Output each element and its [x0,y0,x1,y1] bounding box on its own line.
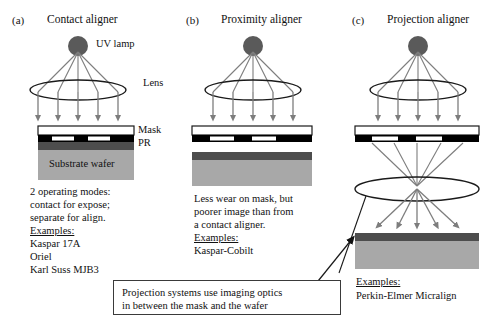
panel-a-label: (a) [12,14,24,26]
mask-plate-b [192,126,312,135]
substrate-wafer-c [355,241,479,269]
panel-c-label: (c) [352,14,364,26]
panel-b-graphics [192,36,312,186]
callout-box-inner: Projection systems use imaging optics in… [114,281,340,317]
mask-opening-b2 [252,137,276,141]
mask-plate-a [38,126,134,135]
figure-canvas: (a) Contact aligner UV lamp Lens Mask PR… [0,0,492,323]
photoresist-layer-b [192,152,312,160]
panel-b-label: (b) [186,14,199,26]
panel-a-title: Contact aligner [47,13,118,25]
panel-a-text-line-3: separate for align. [30,212,106,223]
substrate-wafer-b [192,160,312,186]
lamp-to-lens-rays-b [213,52,293,92]
lamp-to-lens-rays-a [38,52,118,92]
lens-label-a: Lens [143,77,163,88]
panel-c-example-1: Perkin-Elmer Micralign [356,290,457,301]
panel-a-examples-heading: Examples: [30,225,74,236]
lamp-to-lens-rays-c [378,52,458,92]
callout-line-2: in between the mask and the wafer [122,299,333,312]
pr-label-a: PR [138,137,151,148]
uv-lamp-label-a: UV lamp [96,38,135,49]
panel-a-example-1: Kaspar 17A [30,238,80,249]
panel-b-text-line-1: Less wear on mask, but [194,193,293,204]
panel-b-example-1: Kaspar-Cobilt [194,245,253,256]
mask-plate-c [355,126,479,135]
callout-box: Projection systems use imaging optics in… [113,280,341,315]
panel-c-title: Projection aligner [387,13,469,25]
projection-to-wafer-rays-c [378,189,457,226]
panel-a-text-line-2: contact for expose; [30,199,110,210]
panel-b-examples-heading: Examples: [194,232,238,243]
panel-c-examples-heading: Examples: [356,276,400,287]
callout-line-1: Projection systems use imaging optics [122,286,333,299]
panel-a-text-line-1: 2 operating modes: [30,186,110,197]
lens-to-mask-rays-b [213,92,293,118]
mask-to-projection-rays-c [372,143,463,186]
mask-opening-c2 [416,137,442,141]
lens-to-mask-rays-c [378,92,458,118]
mask-opening-a1 [52,137,74,141]
panel-a-example-2: Oriel [30,251,52,262]
panel-a-example-3: Karl Suss MJB3 [30,264,99,275]
photoresist-layer-a [38,142,134,150]
mask-opening-b1 [210,137,234,141]
mask-opening-c1 [372,137,398,141]
panel-b-title: Proximity aligner [221,13,302,25]
panel-b-text-line-2: poorer image than from [194,206,293,217]
substrate-wafer-label-a: Substrate wafer [49,158,115,169]
lens-to-mask-rays-a [38,92,118,118]
panel-b-text-line-3: a contact aligner. [194,219,265,230]
panel-c-graphics [355,36,479,269]
mask-label-a: Mask [138,124,161,135]
mask-opening-a2 [88,137,110,141]
photoresist-layer-c [355,233,479,241]
